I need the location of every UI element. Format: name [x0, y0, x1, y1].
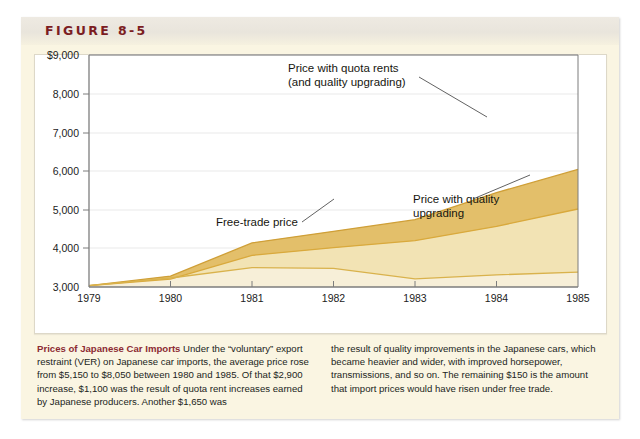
annotation-line: Free-trade price [216, 216, 298, 228]
y-tick-label: 5,000 [53, 204, 79, 216]
x-tick-label: 1983 [403, 292, 427, 304]
y-tick-label: 4,000 [53, 242, 79, 254]
y-tick-label: $9,000 [47, 49, 79, 61]
x-tick-label: 1985 [566, 292, 590, 304]
caption-right-paragraph: the result of quality improvements in th… [331, 342, 603, 395]
annotation-line: Price with quality [413, 193, 500, 205]
annotation-leader-line [419, 77, 487, 117]
caption-column-right: the result of quality improvements in th… [331, 342, 603, 412]
caption-column-left: Prices of Japanese Car Imports Under the… [37, 342, 309, 412]
x-tick-label: 1979 [77, 292, 101, 304]
y-tick-label: 6,000 [53, 165, 79, 177]
chart-areas [89, 169, 578, 287]
annotation-leader-line [302, 199, 334, 222]
x-tick-label: 1984 [485, 292, 509, 304]
annotation-line: Price with quota rents [288, 62, 399, 74]
x-axis-tick-labels: 1979 1980 1981 1982 1983 1984 1985 [77, 292, 590, 304]
y-tick-label: 3,000 [53, 281, 79, 293]
figure-card: FIGURE 8-5 [21, 17, 619, 419]
caption-title: Prices of Japanese Car Imports [37, 343, 180, 354]
x-tick-label: 1980 [159, 292, 183, 304]
annotation-line: (and quality upgrading) [288, 76, 406, 88]
y-axis-tick-labels: $9,000 8,000 7,000 6,000 5,000 4,000 3,0… [47, 49, 79, 293]
x-tick-label: 1981 [240, 292, 264, 304]
y-tick-label: 8,000 [53, 88, 79, 100]
caption-left-paragraph: Prices of Japanese Car Imports Under the… [37, 342, 309, 408]
annotation-price-with-quota-rents: Price with quota rents (and quality upgr… [288, 62, 487, 117]
annotation-free-trade-price: Free-trade price [216, 199, 334, 228]
y-tick-label: 7,000 [53, 127, 79, 139]
annotation-line: upgrading [413, 207, 464, 219]
x-tick-label: 1982 [322, 292, 346, 304]
figure-caption: Prices of Japanese Car Imports Under the… [37, 342, 603, 412]
